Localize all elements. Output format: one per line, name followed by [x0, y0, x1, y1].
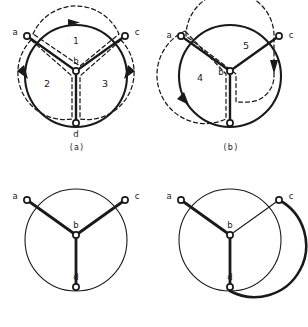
label-node-a-a: a — [12, 27, 17, 37]
caption-panel-a: (a) — [0, 143, 154, 152]
label-node-c-d: c — [289, 191, 294, 201]
panel-d-drawing: a b c d — [154, 164, 308, 327]
label-loop-2: 2 — [44, 78, 50, 89]
loop-4-arrow-icon — [177, 92, 189, 105]
node-c-c — [122, 197, 128, 203]
label-node-a-d: a — [166, 191, 171, 201]
node-d-b — [227, 120, 233, 126]
label-loop-1: 1 — [73, 36, 78, 46]
label-node-b-d: b — [227, 220, 232, 230]
label-node-b-c: b — [73, 220, 78, 230]
panel-c: a b c d (c) — [0, 164, 154, 327]
panel-a: a b c d 1 2 3 (a) — [0, 0, 154, 164]
node-b-c — [73, 232, 79, 238]
loop-5-arrow-icon — [270, 60, 278, 74]
spoke-ab-a — [27, 36, 76, 71]
node-d-c — [73, 284, 79, 290]
panel-d: a b c d (d) — [154, 164, 308, 327]
node-a-b — [178, 33, 184, 39]
panel-b-drawing: a b c 4 5 — [154, 0, 308, 164]
label-node-c-c: c — [135, 191, 140, 201]
node-b-a — [73, 68, 79, 74]
label-loop-4: 4 — [197, 72, 203, 83]
panel-b: a b c 4 5 (b) — [154, 0, 308, 164]
label-loop-3: 3 — [102, 78, 108, 89]
node-b-b — [227, 68, 233, 74]
label-node-c-a: c — [135, 27, 140, 37]
spoke-bc-c — [76, 200, 125, 235]
spoke-bc-d — [230, 200, 279, 235]
arc-cd-bold-d — [230, 200, 306, 297]
node-d-a — [73, 120, 79, 126]
label-node-c-b: c — [289, 30, 294, 40]
label-node-b-a: b — [73, 56, 78, 66]
node-d-d — [227, 284, 233, 290]
label-node-d-a: d — [73, 129, 78, 139]
spoke-ab-d — [181, 200, 230, 235]
label-node-a-b: a — [166, 30, 171, 40]
label-node-a-c: a — [12, 191, 17, 201]
node-c-d — [276, 197, 282, 203]
node-c-a — [122, 33, 128, 39]
spoke-bc-a — [76, 36, 125, 71]
node-a-d — [178, 197, 184, 203]
panel-a-drawing: a b c d 1 2 3 — [0, 0, 154, 164]
panel-c-drawing: a b c d — [0, 164, 154, 327]
label-node-d-d: d — [227, 272, 232, 282]
node-a-a — [24, 33, 30, 39]
figure-container: a b c d 1 2 3 (a) — [0, 0, 308, 327]
spoke-ab-b — [181, 36, 230, 71]
node-b-d — [227, 232, 233, 238]
node-a-c — [24, 197, 30, 203]
label-node-b-b: b — [218, 67, 223, 77]
caption-panel-b: (b) — [154, 143, 308, 152]
spoke-ab-c — [27, 200, 76, 235]
label-loop-5: 5 — [243, 40, 249, 51]
label-node-d-c: d — [73, 272, 78, 282]
node-c-b — [276, 33, 282, 39]
